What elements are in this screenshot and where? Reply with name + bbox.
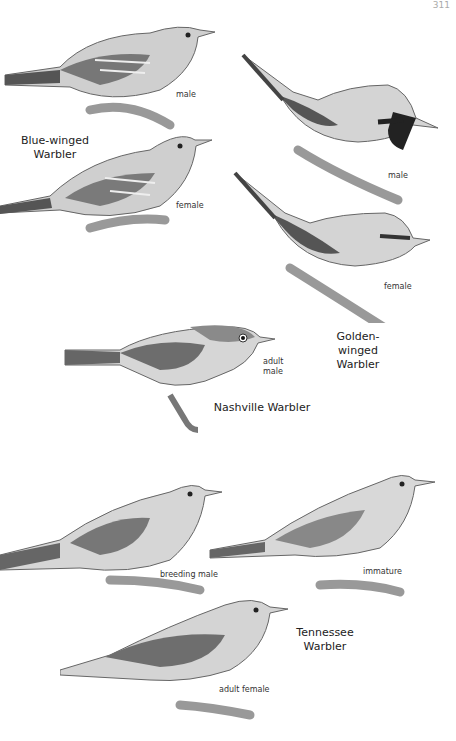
tennessee-immature-illustration [205, 470, 440, 605]
species-name-golden-winged: Golden-winged Warbler [318, 330, 398, 372]
species-name-line2: Warbler [295, 640, 355, 654]
page-number: 311 [433, 0, 450, 10]
label-golden-winged-female: female [384, 282, 412, 291]
blue-winged-female-illustration [0, 128, 215, 243]
label-line1: adult [263, 357, 283, 367]
tennessee-adult-female-illustration [60, 595, 290, 725]
nashville-male-illustration [60, 325, 275, 435]
label-blue-winged-female: female [176, 201, 204, 210]
tennessee-breeding-male-illustration [0, 480, 225, 605]
label-tennessee-immature: immature [363, 567, 402, 576]
label-tennessee-adult-female: adult female [219, 685, 270, 694]
label-nashville-adult-male: adult male [263, 357, 283, 377]
blue-winged-male-illustration [0, 15, 220, 130]
label-line2: male [263, 367, 283, 377]
label-blue-winged-male: male [176, 90, 196, 99]
species-name-line2: Warbler [318, 358, 398, 372]
species-name-tennessee: Tennessee Warbler [295, 626, 355, 654]
species-name-line1: Tennessee [295, 626, 355, 640]
species-name-nashville: Nashville Warbler [212, 401, 312, 415]
golden-winged-female-illustration [230, 168, 435, 323]
species-name-line1: Golden-winged [318, 330, 398, 358]
